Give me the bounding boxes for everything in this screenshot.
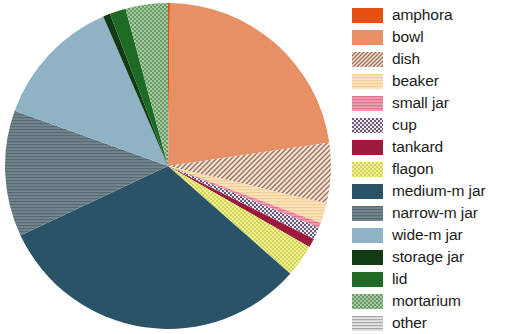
legend-swatch-icon xyxy=(352,272,383,287)
legend-item-lid[interactable]: lid xyxy=(352,268,505,290)
legend-swatch-icon xyxy=(352,184,383,199)
pie-chart-svg xyxy=(0,0,340,334)
legend-item-label: cup xyxy=(392,114,417,136)
legend-item-dish[interactable]: dish xyxy=(352,48,505,70)
pie-chart-figure: amphorabowldishbeakersmall jarcuptankard… xyxy=(0,0,505,334)
legend-swatch-icon xyxy=(352,96,383,111)
legend-swatch-icon xyxy=(352,74,383,89)
chart-legend: amphorabowldishbeakersmall jarcuptankard… xyxy=(352,4,505,334)
legend-swatch-icon xyxy=(352,118,383,133)
legend-item-label: medium-m jar xyxy=(392,180,486,202)
legend-item-label: dish xyxy=(392,48,420,70)
legend-swatch-icon xyxy=(352,316,383,331)
legend-swatch-icon xyxy=(352,30,383,45)
legend-item-small-jar[interactable]: small jar xyxy=(352,92,505,114)
legend-item-label: narrow-m jar xyxy=(392,202,478,224)
legend-swatch-icon xyxy=(352,206,383,221)
pie-slice-bowl xyxy=(168,3,329,166)
legend-item-label: beaker xyxy=(392,70,439,92)
legend-item-wide-m-jar[interactable]: wide-m jar xyxy=(352,224,505,246)
legend-item-label: bowl xyxy=(392,26,423,48)
legend-item-narrow-m-jar[interactable]: narrow-m jar xyxy=(352,202,505,224)
legend-item-bowl[interactable]: bowl xyxy=(352,26,505,48)
legend-item-cup[interactable]: cup xyxy=(352,114,505,136)
legend-item-label: small jar xyxy=(392,92,449,114)
legend-swatch-icon xyxy=(352,250,383,265)
legend-item-label: wide-m jar xyxy=(392,224,462,246)
legend-item-beaker[interactable]: beaker xyxy=(352,70,505,92)
legend-item-amphora[interactable]: amphora xyxy=(352,4,505,26)
legend-swatch-icon xyxy=(352,140,383,155)
legend-item-label: mortarium xyxy=(392,290,461,312)
legend-item-other[interactable]: other xyxy=(352,312,505,334)
legend-item-label: tankard xyxy=(392,136,443,158)
pie-chart-plot-area xyxy=(0,0,340,334)
legend-item-medium-m-jar[interactable]: medium-m jar xyxy=(352,180,505,202)
legend-item-label: flagon xyxy=(392,158,434,180)
legend-swatch-icon xyxy=(352,162,383,177)
legend-swatch-icon xyxy=(352,8,383,23)
legend-item-storage-jar[interactable]: storage jar xyxy=(352,246,505,268)
legend-item-mortarium[interactable]: mortarium xyxy=(352,290,505,312)
legend-swatch-icon xyxy=(352,228,383,243)
legend-item-tankard[interactable]: tankard xyxy=(352,136,505,158)
legend-item-label: other xyxy=(392,312,427,334)
legend-item-label: storage jar xyxy=(392,246,464,268)
legend-swatch-icon xyxy=(352,52,383,67)
legend-item-label: lid xyxy=(392,268,407,290)
legend-swatch-icon xyxy=(352,294,383,309)
legend-item-flagon[interactable]: flagon xyxy=(352,158,505,180)
legend-item-label: amphora xyxy=(392,4,452,26)
pie-slice-group xyxy=(5,3,331,329)
